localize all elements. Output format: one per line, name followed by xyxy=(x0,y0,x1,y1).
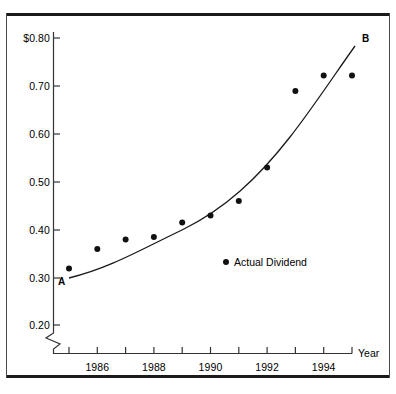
y-tick-label: 0.30 xyxy=(6,272,50,284)
figure-frame: $0.80 0.70 0.60 0.50 0.40 0.30 0.20 1986… xyxy=(0,0,396,394)
curve-start-label-a: A xyxy=(58,276,65,287)
x-tick-label: 1988 xyxy=(132,361,176,373)
x-tick-label: 1986 xyxy=(75,361,119,373)
data-point xyxy=(208,213,214,219)
data-point xyxy=(236,198,242,204)
curve-end-label-b: B xyxy=(362,33,369,44)
trend-curve xyxy=(69,46,355,278)
data-point xyxy=(94,246,100,252)
data-point xyxy=(264,165,270,171)
data-point-group xyxy=(66,73,355,272)
x-tick-label: 1992 xyxy=(245,361,289,373)
x-tick-label: 1990 xyxy=(189,361,233,373)
y-tick-label: 0.60 xyxy=(6,128,50,140)
data-point xyxy=(66,266,72,272)
x-axis-ticks xyxy=(69,347,352,354)
y-tick-label: 0.20 xyxy=(6,319,50,331)
y-tick-label: 0.50 xyxy=(6,176,50,188)
data-point xyxy=(321,73,327,79)
data-point xyxy=(151,234,157,240)
legend-label: Actual Dividend xyxy=(234,256,307,268)
data-point xyxy=(292,88,298,94)
x-axis-title: Year xyxy=(358,347,379,359)
data-point xyxy=(179,220,185,226)
data-point xyxy=(123,237,129,243)
y-tick-label: 0.70 xyxy=(6,80,50,92)
x-tick-label: 1994 xyxy=(302,361,346,373)
dividend-chart-plot xyxy=(0,0,396,394)
data-point xyxy=(349,73,355,79)
legend-marker xyxy=(223,259,229,265)
y-tick-label: $0.80 xyxy=(6,32,50,44)
y-tick-label: 0.40 xyxy=(6,224,50,236)
